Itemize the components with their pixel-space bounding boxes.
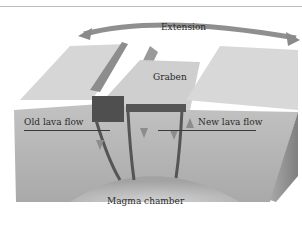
graben-label: Graben (153, 72, 187, 82)
new-lava-flow-label: New lava flow (198, 117, 262, 127)
old-lava-flow-label: Old lava flow (24, 117, 84, 127)
old-lava-flow-leader (24, 130, 110, 131)
extension-label: Extension (161, 22, 206, 32)
graben-block-diagram (0, 0, 302, 229)
magma-chamber-label: Magma chamber (107, 196, 184, 206)
new-lava-flow-leader (158, 130, 256, 131)
